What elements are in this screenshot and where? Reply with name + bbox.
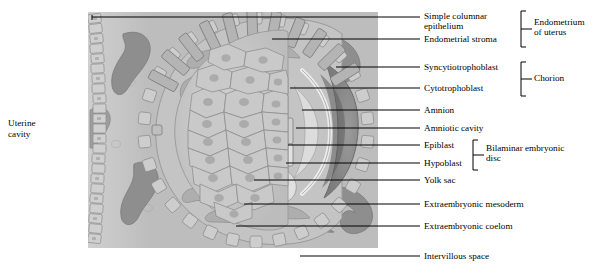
label-cytotrophoblast: Cytotrophoblast: [424, 83, 483, 93]
label-hypoblast: Hypoblast: [424, 158, 462, 168]
group-label-chorion: Chorion: [534, 73, 564, 83]
label-epiblast: Epiblast: [424, 140, 454, 150]
group-label-bilaminar-embryonic-disc: Bilaminar embryonic disc: [486, 143, 606, 164]
group-label-endometrium-of-uterus: Endometrium of uterus: [534, 17, 585, 38]
uterine-cavity-label: Uterine cavity: [8, 118, 36, 140]
label-amnion: Amnion: [424, 105, 454, 115]
label-intervillous-space: Intervillous space: [424, 251, 489, 261]
label-endometrial-stroma: Endometrial stroma: [424, 34, 497, 44]
bracket-chorion: [519, 61, 535, 97]
bracket-bilaminar-embryonic-disc: [471, 139, 487, 171]
label-simple-columnar-epithelium: Simple columnar epithelium: [424, 11, 487, 32]
label-syncytiotrophoblast: Syncytiotrophoblast: [424, 62, 498, 72]
label-amniotic-cavity: Amniotic cavity: [424, 123, 483, 133]
label-extraembryonic-coelom: Extraembryonic coelom: [424, 221, 513, 231]
label-yolk-sac: Yolk sac: [424, 175, 455, 185]
label-extraembryonic-mesoderm: Extraembryonic mesoderm: [424, 199, 524, 209]
bracket-endometrium-of-uterus: [519, 10, 535, 48]
figure-root: Uterine cavity Simple columnar epitheliu…: [0, 0, 610, 278]
